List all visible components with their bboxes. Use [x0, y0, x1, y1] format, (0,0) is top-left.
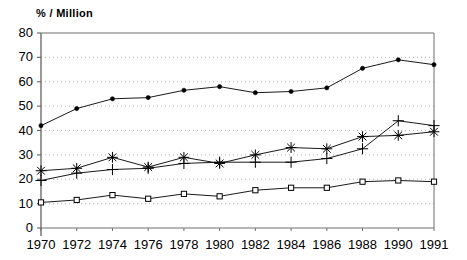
marker-filled-circle	[253, 91, 257, 95]
marker-open-square	[146, 196, 151, 201]
marker-filled-circle	[218, 85, 222, 89]
series-open-square-line	[41, 180, 434, 202]
marker-filled-circle	[75, 106, 79, 110]
marker-open-square	[431, 179, 436, 184]
plot-area	[0, 0, 467, 260]
series-plus	[35, 115, 439, 186]
y-tick-label: 70	[3, 49, 33, 64]
marker-filled-circle	[325, 86, 329, 90]
y-tick-label: 40	[3, 123, 33, 138]
marker-filled-circle	[432, 63, 436, 67]
y-tick-label: 50	[3, 98, 33, 113]
series-open-square	[38, 178, 436, 205]
marker-open-square	[217, 194, 222, 199]
marker-open-square	[38, 200, 43, 205]
marker-filled-circle	[182, 88, 186, 92]
marker-filled-circle	[39, 124, 43, 128]
series-plus-line	[41, 121, 434, 181]
marker-open-square	[181, 191, 186, 196]
marker-open-square	[324, 185, 329, 190]
marker-filled-circle	[289, 89, 293, 93]
line-chart: % / Million 01020304050607080 1970197219…	[0, 0, 467, 260]
series-filled-circle	[39, 58, 436, 128]
y-tick-label: 10	[3, 196, 33, 211]
marker-filled-circle	[110, 97, 114, 101]
marker-open-square	[396, 178, 401, 183]
marker-open-square	[288, 185, 293, 190]
plot-svg	[0, 0, 467, 260]
marker-filled-circle	[146, 95, 150, 99]
x-tick-label: 1991	[413, 237, 455, 252]
marker-open-square	[253, 188, 258, 193]
y-tick-label: 30	[3, 147, 33, 162]
y-tick-label: 80	[3, 25, 33, 40]
marker-filled-circle	[360, 66, 364, 70]
y-tick-label: 20	[3, 171, 33, 186]
y-tick-label: 60	[3, 74, 33, 89]
series-asterisk	[36, 126, 440, 176]
marker-open-square	[110, 192, 115, 197]
series-filled-circle-line	[41, 60, 434, 126]
marker-open-square	[360, 179, 365, 184]
marker-open-square	[74, 197, 79, 202]
y-tick-label: 0	[3, 220, 33, 235]
marker-filled-circle	[396, 58, 400, 62]
series-asterisk-line	[41, 132, 434, 171]
